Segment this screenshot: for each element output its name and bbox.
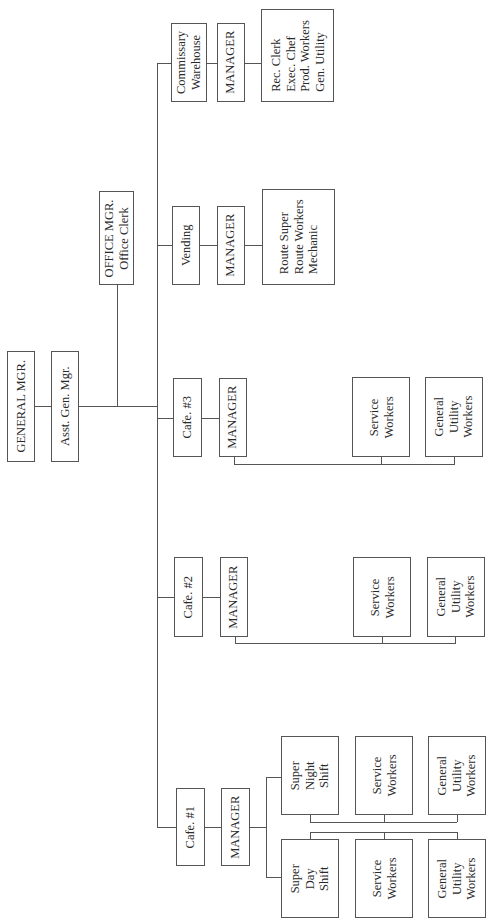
- cafe1-day-utility-box: General Utility Workers: [428, 839, 486, 918]
- cafe3-utility-workers-box: General Utility Workers: [425, 377, 483, 457]
- vending-box: Vending: [172, 206, 200, 285]
- line-branch-commissary: [157, 63, 171, 64]
- cafe2-manager-box: MANAGER: [220, 557, 248, 637]
- line-night-bus: [310, 822, 457, 823]
- line-cafe1-mgr: [205, 827, 221, 828]
- cafe2-label: Cafe. #2: [181, 576, 196, 618]
- vending-staff-label: Route Super Route Workers Mechanic: [277, 200, 321, 275]
- cafe2-utility-workers-label: General Utility Workers: [434, 576, 478, 618]
- general-manager-box: GENERAL MGR.: [7, 351, 35, 462]
- line-night-sw: [384, 815, 385, 822]
- cafe1-night-utility-box: General Utility Workers: [428, 736, 486, 815]
- line-main-trunk: [157, 63, 158, 828]
- commissary-label: Commissary Warehouse: [175, 31, 204, 94]
- commissary-staff-box: Rec. Clerk Exec. Chef Prod. Workers Gen.…: [261, 9, 334, 102]
- line-cafe3-mgr: [202, 418, 219, 419]
- vending-manager-box: MANAGER: [217, 206, 245, 285]
- commissary-manager-box: MANAGER: [217, 23, 245, 102]
- cafe1-manager-box: MANAGER: [221, 788, 250, 866]
- line-branch-vending: [157, 245, 172, 246]
- line-cafe2-mgr: [203, 597, 220, 598]
- vending-staff-box: Route Super Route Workers Mechanic: [262, 189, 335, 285]
- commissary-manager-label: MANAGER: [224, 31, 239, 94]
- asst-general-manager-label: Asst. Gen. Mgr.: [58, 367, 73, 447]
- commissary-box: Commissary Warehouse: [171, 23, 207, 102]
- cafe3-utility-workers-label: General Utility Workers: [432, 396, 476, 438]
- cafe3-manager-label: MANAGER: [226, 386, 241, 449]
- line-vending-mgr: [200, 245, 217, 246]
- line-cafe1-to-day: [266, 877, 281, 878]
- line-gm-asst: [35, 406, 51, 407]
- office-manager-label: OFFICE MGR. Office Clerk: [102, 199, 131, 277]
- line-cafe3-bus: [234, 464, 455, 465]
- cafe1-day-super-label: Super Day Shift: [288, 864, 332, 893]
- general-manager-label: GENERAL MGR.: [14, 360, 29, 453]
- line-cafe2-sw: [382, 637, 383, 643]
- cafe1-night-service-label: Service Workers: [369, 754, 398, 796]
- cafe1-day-service-box: Service Workers: [355, 839, 413, 918]
- cafe2-service-workers-box: Service Workers: [353, 557, 411, 637]
- line-commissary-mgr: [207, 63, 217, 64]
- line-cafe2-bus: [235, 643, 456, 644]
- line-cafe3-mgr-down: [234, 457, 235, 464]
- line-vending-staff: [245, 245, 262, 246]
- line-office-stem: [117, 285, 118, 406]
- vending-manager-label: MANAGER: [224, 214, 239, 277]
- cafe2-utility-workers-box: General Utility Workers: [427, 557, 485, 637]
- line-night-super-down: [310, 815, 311, 822]
- cafe3-service-workers-label: Service Workers: [366, 396, 395, 438]
- line-asst-trunk: [79, 406, 158, 407]
- commissary-staff-label: Rec. Clerk Exec. Chef Prod. Workers Gen.…: [269, 20, 327, 92]
- cafe1-night-super-box: Super Night Shift: [281, 736, 339, 815]
- cafe3-box: Cafe. #3: [173, 378, 202, 457]
- line-commissary-staff: [245, 63, 261, 64]
- line-cafe1-split: [266, 777, 267, 877]
- cafe1-manager-label: MANAGER: [228, 795, 243, 858]
- cafe3-service-workers-box: Service Workers: [352, 377, 410, 457]
- line-cafe3-gu: [454, 457, 455, 464]
- cafe1-box: Cafe. #1: [176, 788, 205, 866]
- cafe1-day-super-box: Super Day Shift: [281, 839, 339, 918]
- line-day-sw: [384, 832, 385, 839]
- cafe1-night-super-label: Super Night Shift: [288, 761, 332, 790]
- cafe2-service-workers-label: Service Workers: [367, 576, 396, 618]
- asst-general-manager-box: Asst. Gen. Mgr.: [51, 351, 79, 462]
- cafe3-manager-box: MANAGER: [219, 378, 247, 457]
- cafe1-night-service-box: Service Workers: [355, 736, 413, 815]
- cafe1-label: Cafe. #1: [183, 806, 198, 848]
- cafe2-box: Cafe. #2: [174, 557, 203, 637]
- cafe1-day-utility-label: General Utility Workers: [435, 857, 479, 899]
- cafe2-manager-label: MANAGER: [227, 565, 242, 628]
- line-cafe1-to-night: [266, 777, 281, 778]
- line-branch-cafe3: [157, 418, 173, 419]
- line-cafe3-sw: [381, 457, 382, 464]
- cafe1-day-service-label: Service Workers: [369, 857, 398, 899]
- line-branch-cafe1: [158, 827, 176, 828]
- line-cafe2-gu: [455, 637, 456, 643]
- office-manager-box: OFFICE MGR. Office Clerk: [99, 191, 134, 285]
- line-day-gu: [457, 832, 458, 839]
- cafe3-label: Cafe. #3: [180, 396, 195, 438]
- vending-label: Vending: [179, 225, 194, 267]
- line-cafe1-mgr-out: [250, 827, 266, 828]
- cafe1-night-utility-label: General Utility Workers: [435, 754, 479, 796]
- line-branch-cafe2: [158, 597, 174, 598]
- line-day-super-up: [310, 832, 311, 839]
- line-night-gu: [457, 815, 458, 822]
